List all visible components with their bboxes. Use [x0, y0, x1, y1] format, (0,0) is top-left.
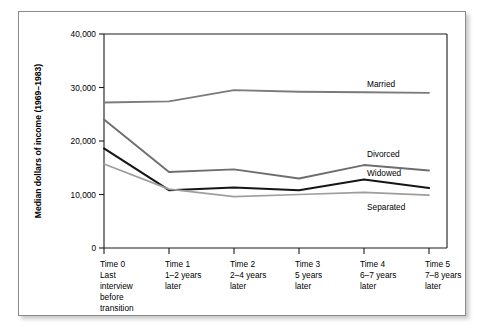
x-axis-tick-label: Time 2	[230, 259, 255, 269]
x-axis-tick-label: 1–2 years	[165, 270, 201, 280]
y-axis-tick-label: 20,000	[71, 136, 97, 146]
x-axis-tick-label: Last	[100, 270, 116, 280]
x-axis-tick-label: 7–8 years	[425, 270, 461, 280]
x-axis-tick-label: 2–4 years	[230, 270, 266, 280]
y-axis-tick-label: 10,000	[71, 190, 97, 200]
y-axis-tick-label: 40,000	[71, 29, 97, 39]
figure-frame: 010,00020,00030,00040,000Time 0Lastinter…	[18, 11, 466, 316]
x-axis-tick-label: Time 4	[360, 259, 385, 269]
x-axis-tick-label: transition	[100, 303, 134, 313]
x-axis-tick-label: later	[360, 281, 376, 291]
x-axis-tick-label: later	[165, 281, 181, 291]
x-axis-tick-label: later	[230, 281, 246, 291]
x-axis-tick-label: later	[295, 281, 311, 291]
y-axis-title: Median dollars of income (1969–1983)	[33, 64, 43, 218]
x-axis-tick-label: Time 3	[295, 259, 320, 269]
x-axis-tick-label: before	[100, 292, 124, 302]
series-label-divorced: Divorced	[367, 149, 400, 159]
y-axis-tick-label: 0	[91, 243, 96, 253]
x-axis-tick-label: Time 1	[165, 259, 190, 269]
x-axis-tick-label: interview	[100, 281, 134, 291]
series-line-married	[104, 90, 429, 102]
income-line-chart: 010,00020,00030,00040,000Time 0Lastinter…	[19, 12, 465, 315]
y-axis-tick-label: 30,000	[71, 83, 97, 93]
x-axis-tick-label: Time 5	[425, 259, 450, 269]
x-axis-tick-label: Time 0	[100, 259, 125, 269]
x-axis-tick-label: 5 years	[295, 270, 322, 280]
series-label-widowed: Widowed	[367, 168, 402, 178]
x-axis-tick-label: later	[425, 281, 441, 291]
x-axis-tick-label: 6–7 years	[360, 270, 396, 280]
series-label-separated: Separated	[367, 202, 406, 212]
series-label-married: Married	[367, 79, 396, 89]
chart-plot-area: 010,00020,00030,00040,000Time 0Lastinter…	[19, 12, 465, 315]
